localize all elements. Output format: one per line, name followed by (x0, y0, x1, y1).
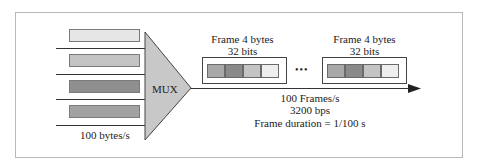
input-line-3 (56, 99, 146, 100)
output-frame-duration: Frame duration = 1/100 s (240, 117, 380, 129)
frame-1-subtitle: 32 bits (200, 45, 285, 57)
frame-2-cell-3 (363, 64, 381, 78)
frame-1-cell-1 (207, 64, 225, 78)
input-bar-3 (69, 80, 140, 93)
frame-1-box (202, 57, 287, 84)
frame-2-title: Frame 4 bytes (322, 33, 407, 45)
input-line-1 (56, 48, 146, 49)
mux-label: MUX (152, 83, 178, 95)
output-frame-rate: 100 Frames/s (245, 92, 375, 104)
frame-1-cell-3 (243, 64, 261, 78)
input-line-2 (56, 74, 146, 75)
frame-2-box (322, 57, 407, 84)
output-bit-rate: 3200 bps (245, 104, 375, 116)
input-bar-1 (69, 29, 140, 42)
frame-2-cell-4 (381, 64, 399, 78)
frame-1-cell-4 (261, 64, 279, 78)
input-rate-label: 100 bytes/s (80, 129, 130, 141)
ellipsis: ••• (295, 64, 309, 76)
frame-2-cell-2 (345, 64, 363, 78)
frame-2-cell-1 (327, 64, 345, 78)
frame-2-subtitle: 32 bits (322, 45, 407, 57)
input-line-4 (56, 125, 146, 126)
arrow-head-icon (408, 84, 422, 93)
input-bar-4 (69, 105, 140, 118)
output-line (191, 88, 411, 89)
input-bar-2 (69, 54, 140, 67)
frame-1-title: Frame 4 bytes (200, 33, 285, 45)
frame-1-cell-2 (225, 64, 243, 78)
